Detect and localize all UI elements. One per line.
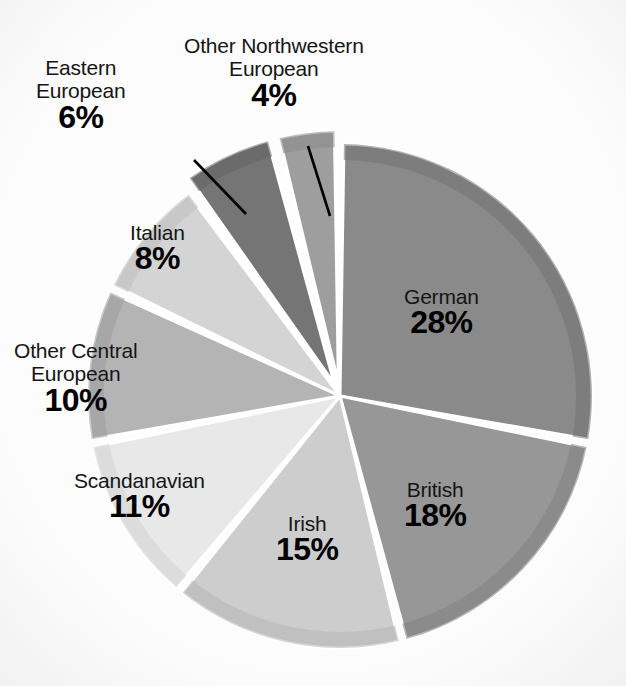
slice-value-german: 28% — [404, 306, 479, 339]
slice-name-eastern-european-line1: Eastern — [36, 57, 125, 80]
slice-label-eastern-european: Eastern European 6% — [36, 57, 125, 134]
slice-label-british: British 18% — [404, 479, 466, 532]
slice-label-italian: Italian 8% — [130, 222, 185, 275]
slice-value-scandanavian: 11% — [74, 490, 205, 523]
slice-value-eastern-european: 6% — [36, 101, 125, 134]
slice-label-irish: Irish 15% — [276, 513, 338, 566]
slice-name-other-central-european-line1: Other Central — [14, 340, 137, 363]
slice-label-other-northwestern-european: Other Northwestern European 4% — [184, 35, 364, 112]
slice-value-british: 18% — [404, 499, 466, 532]
slice-label-scandanavian: Scandanavian 11% — [74, 470, 205, 523]
slice-value-other-central-european: 10% — [14, 384, 137, 417]
slice-value-other-northwestern-european: 4% — [184, 79, 364, 112]
slice-name-other-northwestern-european-line1: Other Northwestern — [184, 35, 364, 58]
slice-value-irish: 15% — [276, 533, 338, 566]
pie-chart: German 28% British 18% Irish 15% Scandan… — [0, 0, 626, 686]
slice-label-other-central-european: Other Central European 10% — [14, 340, 137, 417]
slice-value-italian: 8% — [130, 242, 185, 275]
slice-label-german: German 28% — [404, 286, 479, 339]
